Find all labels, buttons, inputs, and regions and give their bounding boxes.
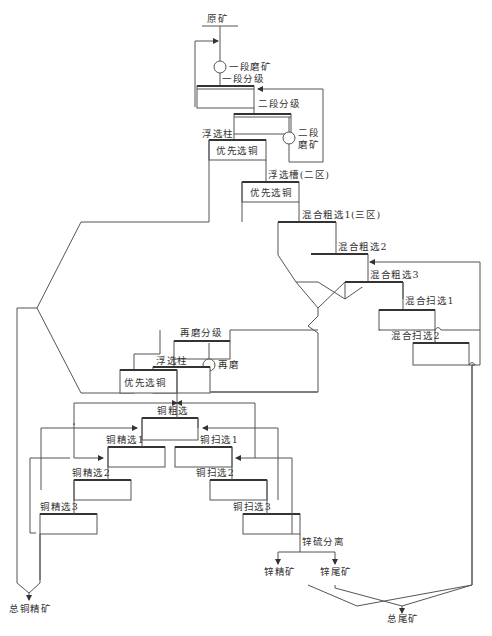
- cu-scavenger-2-cell: [210, 480, 267, 500]
- label-cu-cleaner-3: 铜精选3: [40, 501, 78, 512]
- label-total-tailings: 总尾矿: [387, 613, 419, 624]
- label-total-cu-concentrate: 总铜精矿: [9, 603, 51, 614]
- label-secondary-grinding-2: 磨矿: [298, 139, 319, 150]
- label-cu-scavenger-3: 铜扫选3: [233, 501, 271, 512]
- cu-cleaner-2-cell: [74, 480, 131, 500]
- primary-classification-cell: [197, 86, 254, 108]
- label-zn-s-separation: 锌硫分离: [302, 536, 344, 547]
- label-bulk-scavenger-2: 混合扫选2: [391, 330, 440, 341]
- label-primary-classification: 一段分级: [222, 73, 264, 84]
- label-secondary-classification: 二段分级: [258, 98, 300, 109]
- label-regrind: 再磨: [218, 359, 239, 370]
- label-regrind-classification: 再磨分级: [180, 327, 222, 338]
- cu-cleaner-1-cell: [108, 447, 165, 467]
- cu-cleaner-3-cell: [40, 514, 97, 534]
- label-cu-scavenger-2: 铜扫选2: [196, 467, 234, 478]
- label-cu-preferential-3: 优先选铜: [124, 377, 166, 388]
- label-primary-grinding: 一段磨矿: [229, 61, 271, 72]
- label-feed: 原矿: [207, 13, 228, 24]
- label-cu-cleaner-2: 铜精选2: [72, 467, 110, 478]
- cu-scavenger-3-cell: [243, 514, 300, 534]
- label-flotation-column-1: 浮选柱: [202, 128, 234, 139]
- label-cu-scavenger-1: 铜扫选1: [200, 434, 238, 445]
- label-zn-concentrate: 锌精矿: [264, 566, 296, 577]
- label-flotation-cell-zone2: 浮选槽(二区): [268, 169, 330, 180]
- label-cu-preferential-1: 优先选铜: [216, 145, 258, 156]
- bulk-rougher-2-cell: [311, 254, 368, 299]
- secondary-mill-icon: [283, 132, 295, 144]
- label-secondary-grinding-1: 二段: [298, 127, 319, 138]
- label-zn-tailings: 锌尾矿: [320, 566, 352, 577]
- label-bulk-scavenger-1: 混合扫选1: [405, 295, 454, 306]
- secondary-classification-cell: [234, 114, 291, 134]
- label-cu-cleaner-1: 铜精选1: [106, 434, 144, 445]
- label-bulk-rougher-1: 混合粗选1(三区): [302, 209, 381, 220]
- cu-scavenger-1-cell: [175, 447, 232, 467]
- label-flotation-column-2: 浮选柱: [156, 355, 188, 366]
- primary-mill-icon: [214, 61, 226, 73]
- label-cu-preferential-2: 优先选铜: [250, 187, 292, 198]
- label-bulk-rougher-2: 混合粗选2: [338, 241, 387, 252]
- label-bulk-rougher-3: 混合粗选3: [370, 269, 419, 280]
- bulk-scavenger-2-cell: [413, 343, 469, 365]
- label-cu-rougher: 铜粗选: [157, 405, 189, 416]
- flowsheet-diagram: 原矿 一段磨矿 一段分级 二段分级 二段 磨矿 浮选柱 优先选铜 浮选槽(二区)…: [0, 0, 492, 636]
- cu-rougher-cell: [142, 418, 198, 440]
- bulk-scavenger-1-cell: [379, 310, 435, 330]
